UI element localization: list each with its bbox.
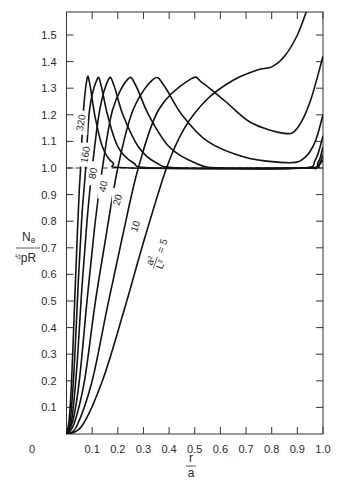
y-tick-label: 1.1 — [41, 135, 56, 147]
y-axis-numerator: Nθ — [22, 230, 36, 245]
x-axis-title: r a — [186, 451, 196, 480]
chart: 0.10.20.30.40.50.60.70.80.91.000.10.20.3… — [0, 0, 343, 490]
y-tick-label: 0.8 — [41, 215, 56, 227]
x-tick-label: 0.2 — [110, 443, 125, 455]
y-tick-label: 1.2 — [41, 109, 56, 121]
x-tick-label: 0.6 — [213, 443, 228, 455]
x-tick-label: 1.0 — [315, 443, 330, 455]
y-tick-label: 1.0 — [41, 162, 56, 174]
y-tick-label: 1.3 — [41, 82, 56, 94]
y-tick-label: 0.4 — [41, 322, 56, 334]
y-tick-label: 0.7 — [41, 242, 56, 254]
curves — [67, 8, 324, 434]
x-tick-label: 0.1 — [85, 443, 100, 455]
curve-20 — [67, 77, 324, 434]
x-axis-denominator: a — [188, 466, 195, 480]
plot-frame — [67, 12, 324, 434]
y-axis-title: Nθ ½pR — [15, 230, 40, 265]
x-tick-label: 0.4 — [161, 443, 176, 455]
y-tick-label: 0.2 — [41, 375, 56, 387]
y-tick-label: 0.5 — [41, 295, 56, 307]
y-tick-label: 0.1 — [41, 401, 56, 413]
y-tick-label: 0.6 — [41, 268, 56, 280]
x-tick-label: 0.7 — [238, 443, 253, 455]
x-tick-label: 0.8 — [264, 443, 279, 455]
x-tick-label: 0.3 — [136, 443, 151, 455]
y-tick-label: 0.3 — [41, 348, 56, 360]
origin-label: 0 — [29, 443, 35, 455]
y-axis-denominator: ½pR — [15, 251, 37, 265]
y-tick-label: 0.9 — [41, 189, 56, 201]
y-tick-label: 1.5 — [41, 29, 56, 41]
y-tick-label: 1.4 — [41, 56, 56, 68]
plot-border — [67, 12, 324, 434]
curve-5 — [67, 8, 308, 434]
x-tick-label: 0.9 — [290, 443, 305, 455]
axis-ticks: 0.10.20.30.40.50.60.70.80.91.000.10.20.3… — [29, 12, 331, 455]
x-axis-numerator: r — [189, 451, 193, 465]
